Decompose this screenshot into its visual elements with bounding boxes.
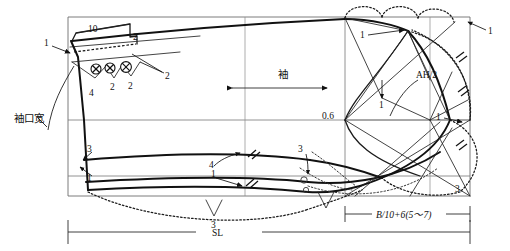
- cuff-pleat-construction: [70, 24, 200, 190]
- mid-one-label: 1: [211, 169, 216, 179]
- pleat-spacing-a-label: 4: [89, 88, 94, 98]
- sleeve-pattern-figure: 袖口宽 袖 10 2 2 4 2 2 1 3 1 4 1 3 0.6 AH/2 …: [0, 0, 510, 251]
- sleeve-length-label: SL: [212, 228, 223, 238]
- pleat-depth-label: 10: [88, 24, 98, 34]
- pleat-circle-mark: [105, 63, 115, 73]
- pleat-circle-marks: [91, 62, 131, 74]
- cap-one-top-label: 1: [360, 30, 365, 40]
- biceps-formula-label: B/10+6(5～7): [376, 209, 431, 221]
- cap-one-left-label: 1: [379, 100, 384, 110]
- pleat-spacing-c-label: 2: [128, 81, 133, 91]
- pleat-circle-mark: [121, 62, 132, 73]
- double-hatch-mark: [456, 140, 467, 150]
- ah-half-label: AH/2: [416, 70, 437, 80]
- left-top-one-label: 1: [44, 38, 49, 48]
- cap-one-right-label: 1: [436, 112, 441, 122]
- cap-ease-label: 0.6: [322, 111, 334, 121]
- right-inner-three-label: 3: [298, 144, 303, 154]
- notch-arrow: [206, 200, 222, 216]
- pleat-spacing-b-label: 2: [110, 82, 115, 92]
- double-hatch-mark: [246, 179, 258, 188]
- right-edge-one-label: 1: [488, 26, 493, 36]
- pleat-circle-mark: [91, 64, 101, 74]
- sleeve-center-label: 袖: [278, 68, 288, 80]
- cuff-width-label: 袖口宽: [14, 112, 45, 124]
- left-low-three-label: 3: [87, 144, 92, 154]
- right-low-three-label: 3: [455, 184, 460, 194]
- sleeve-length-dimension: [68, 220, 470, 244]
- construction-frame: [68, 17, 470, 196]
- pleat-top-right-label: 2: [133, 32, 138, 42]
- pattern-draft-canvas: 袖口宽 袖 10 2 2 4 2 2 1 3 1 4 1 3 0.6 AH/2 …: [0, 0, 510, 251]
- left-low-one-label: 1: [87, 173, 92, 183]
- double-hatch-mark: [456, 52, 467, 62]
- pleat-arrow-right-label: 2: [165, 71, 170, 81]
- internal-guidelines: [68, 17, 470, 196]
